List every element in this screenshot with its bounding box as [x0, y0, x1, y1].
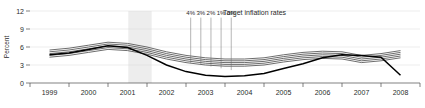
y-axis: 036912 [16, 8, 30, 87]
y-tick-label-12: 12 [16, 8, 24, 15]
x-tick-label-2005: 2005 [276, 89, 292, 96]
chart-plot-area: 036912 199920002001200220032004200520062… [0, 0, 425, 108]
x-tick-label-2002: 2002 [159, 89, 175, 96]
y-tick-label-6: 6 [20, 44, 24, 51]
x-tick-label-2003: 2003 [198, 89, 214, 96]
fan-series-group [50, 42, 401, 66]
x-tick-label-2000: 2000 [81, 89, 97, 96]
leader-label-0pct: 0% [227, 10, 236, 16]
fan-line-0pct [50, 49, 401, 66]
x-tick-label-1999: 1999 [42, 89, 58, 96]
x-tick-label-2004: 2004 [237, 89, 253, 96]
x-axis: 1999200020012002200320042005200620072008 [30, 83, 420, 96]
annotations-group: Target inflation rates4%3%2%1%0% [186, 9, 286, 17]
y-tick-label-0: 0 [20, 80, 24, 87]
y-tick-label-9: 9 [20, 26, 24, 33]
axis-titles: Percent [3, 36, 10, 59]
leader-label-4pct: 4% [186, 10, 195, 16]
leader-label-3pct: 3% [196, 10, 205, 16]
leader-label-1pct: 1% [217, 10, 226, 16]
x-tick-label-2006: 2006 [315, 89, 331, 96]
x-tick-label-2008: 2008 [393, 89, 409, 96]
x-tick-label-2001: 2001 [120, 89, 136, 96]
leader-label-2pct: 2% [207, 10, 216, 16]
y-axis-title: Percent [3, 36, 10, 59]
x-tick-label-2007: 2007 [354, 89, 370, 96]
y-tick-label-3: 3 [20, 62, 24, 69]
inflation-fan-chart: 036912 199920002001200220032004200520062… [0, 0, 425, 108]
